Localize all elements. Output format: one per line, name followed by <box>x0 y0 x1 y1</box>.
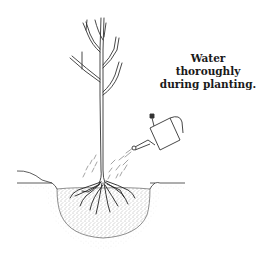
water-spray <box>83 148 133 179</box>
tree <box>70 18 122 183</box>
tree-planting-illustration <box>0 0 259 254</box>
caption-line-1: Water thoroughly <box>158 52 258 78</box>
caption-line-2: during planting. <box>158 78 258 91</box>
caption: Water thoroughly during planting. <box>158 52 258 91</box>
watering-can <box>132 114 183 150</box>
